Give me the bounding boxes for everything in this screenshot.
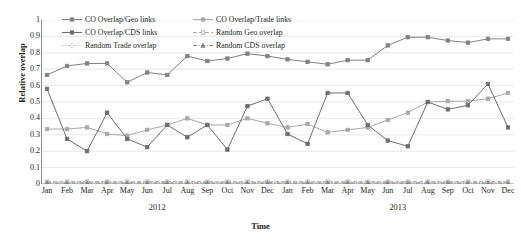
data-point-marker [246,117,249,120]
data-point-marker [406,111,409,114]
data-point-marker [506,126,509,129]
data-point-marker [226,123,229,126]
data-point-marker [326,91,329,94]
data-point-marker [386,44,389,47]
data-point-marker [166,73,169,76]
data-point-marker [506,37,509,40]
legend-item: Random CDS overlap [193,41,324,50]
data-point-marker [45,127,48,130]
data-point-marker [486,82,489,85]
data-point-marker [186,117,189,120]
legend-item: Random Trade overlap [62,41,193,50]
data-point-marker [346,58,349,61]
y-tick-label: 0.7 [2,65,40,73]
legend-item-label: Random Trade overlap [85,42,156,50]
series-line [47,84,508,151]
data-point-marker [286,126,289,129]
data-point-marker [306,142,309,145]
data-point-marker [226,57,229,60]
data-point-marker [146,128,149,131]
data-point-marker [246,104,249,107]
legend-swatch-icon [193,28,213,37]
group-label: 2013 [358,203,438,213]
data-point-marker [201,18,204,21]
y-tick-label: 0.5 [2,98,40,106]
data-point-marker [206,59,209,62]
data-point-marker [105,62,108,65]
legend-swatch-icon [193,41,213,50]
data-point-marker [446,108,449,111]
data-point-marker [466,99,469,102]
data-point-marker [65,137,68,140]
data-point-marker [486,37,489,40]
y-tick-label: 1 [2,16,40,24]
y-tick-label: 0.6 [2,82,40,90]
y-axis-tick-labels: 00.10.20.30.40.50.60.70.80.91 [0,0,40,240]
data-point-marker [326,131,329,134]
y-tick-label: 0.3 [2,131,40,139]
legend-item: CO Overlap/CDS links [62,28,193,37]
data-point-marker [166,123,169,126]
legend-item-label: Random Geo overlap [216,29,283,37]
legend-swatch-icon [62,15,82,24]
y-tick-label: 0.1 [2,164,40,172]
y-tick-label: 0.9 [2,32,40,40]
data-point-marker [201,31,204,34]
data-point-marker [446,39,449,42]
legend-item-label: CO Overlap/Trade links [216,16,291,24]
data-point-marker [306,122,309,125]
data-point-marker [466,41,469,44]
data-point-marker [70,31,73,34]
data-point-marker [266,54,269,57]
data-point-marker [286,58,289,61]
data-point-marker [146,71,149,74]
data-point-marker [85,126,88,129]
data-point-marker [486,97,489,100]
legend-item-label: CO Overlap/Geo links [85,16,155,24]
series-2 [45,91,509,137]
data-point-marker [406,145,409,148]
series-3 [45,82,509,153]
data-point-marker [70,43,74,47]
data-point-marker [146,145,149,148]
data-point-marker [266,97,269,100]
data-point-marker [426,36,429,39]
legend-item: Random Geo overlap [193,28,324,37]
x-axis-tick-labels: JanFebMarAprMayJunJulAugSepOctNovDecJanF… [41,186,514,200]
data-point-marker [186,136,189,139]
data-point-marker [70,18,73,21]
data-point-marker [85,150,88,153]
x-axis-title: Time [0,221,521,231]
data-point-marker [466,104,469,107]
data-point-marker [446,99,449,102]
chart-legend: CO Overlap/Geo linksCO Overlap/Trade lin… [62,13,324,53]
relative-overlap-line-chart: Relative overlap 00.10.20.30.40.50.60.70… [0,0,521,240]
y-tick-label: 0.2 [2,147,40,155]
data-point-marker [45,73,48,76]
data-point-marker [306,60,309,63]
data-point-marker [366,58,369,61]
data-point-marker [65,64,68,67]
series-line [47,93,508,136]
data-point-marker [186,54,189,57]
data-point-marker [426,100,429,103]
y-tick-label: 0.8 [2,49,40,57]
data-point-marker [105,132,108,135]
legend-item: CO Overlap/Geo links [62,15,193,24]
x-axis-group-labels: 20122013 [41,203,514,217]
legend-item-label: Random CDS overlap [216,42,285,50]
x-tick-label: Dec [493,186,521,196]
data-point-marker [266,122,269,125]
data-point-marker [366,123,369,126]
legend-swatch-icon [62,28,82,37]
data-point-marker [386,139,389,142]
data-point-marker [326,63,329,66]
data-point-marker [65,127,68,130]
data-point-marker [45,87,48,90]
data-point-marker [346,128,349,131]
data-point-marker [286,132,289,135]
data-point-marker [201,43,205,47]
data-point-marker [125,81,128,84]
data-point-marker [406,36,409,39]
data-point-marker [125,137,128,140]
